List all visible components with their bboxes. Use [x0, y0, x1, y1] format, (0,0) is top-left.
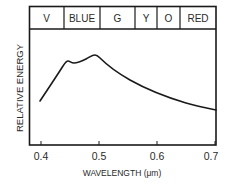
x-tick-label: 0.7: [204, 150, 219, 162]
x-axis-label: WAVELENGTH (μm): [83, 168, 162, 178]
energy-curve: [40, 55, 216, 110]
band-red: RED: [187, 13, 208, 24]
x-tick-label: 0.5: [92, 150, 107, 162]
band-blue: BLUE: [69, 13, 95, 24]
band-o: O: [165, 13, 173, 24]
x-tick-label: 0.4: [34, 150, 49, 162]
spectral-energy-chart: V BLUE G Y O RED 0.4 0.5 0.6 0.7 WAVELEN…: [0, 0, 228, 185]
x-tick-labels: 0.4 0.5 0.6 0.7: [34, 150, 219, 162]
band-g: G: [114, 13, 122, 24]
band-y: Y: [143, 13, 150, 24]
color-bands: V BLUE G Y O RED: [43, 13, 208, 24]
band-v: V: [43, 13, 50, 24]
y-axis-label: RELATIVE ENERGY: [14, 43, 25, 132]
x-tick-label: 0.6: [150, 150, 165, 162]
